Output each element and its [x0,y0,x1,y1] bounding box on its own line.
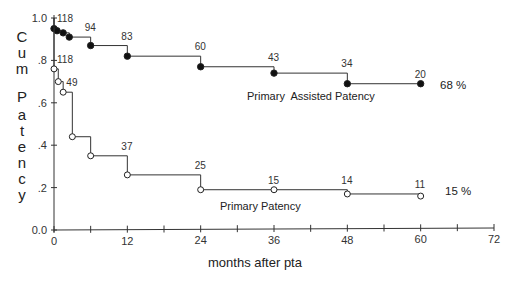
y-tick-label: .4 [38,139,47,151]
x-tick-label: 24 [195,234,207,246]
assisted-percent-label: 68 % [440,79,466,91]
at-risk-count: 11 [415,179,426,190]
open-circle-marker [271,187,277,193]
filled-circle-marker [60,30,66,36]
y-tick-label: .8 [38,54,47,66]
filled-circle-marker [197,64,203,70]
x-tick-label: 48 [341,234,353,246]
open-circle-marker [55,79,61,85]
at-risk-count: 118 [57,13,73,24]
y-tick-label: 0.0 [32,224,47,236]
open-circle-marker [88,153,94,159]
series-layer: 118948360433420118493725151411 [51,13,426,199]
y-axis-title-char: a [18,106,27,123]
step-line [54,29,421,84]
at-risk-count: 49 [66,77,78,88]
step-line [54,69,421,196]
open-circle-marker [124,172,130,178]
filled-circle-marker [344,81,350,87]
at-risk-count: 25 [195,160,207,171]
at-risk-count: 60 [195,41,207,52]
y-axis-title: CumPatency [16,28,29,203]
open-circle-marker [69,134,75,140]
primary-assisted-patency-series: 118948360433420 [51,13,426,87]
at-risk-count: 20 [415,69,427,80]
at-risk-count: 43 [268,52,280,63]
filled-circle-marker [66,34,72,40]
labels-layer: Primary Assisted Patency Primary Patency… [208,79,471,270]
at-risk-count: 94 [85,22,97,33]
filled-circle-marker [87,42,93,48]
x-tick-label: 0 [51,235,57,247]
x-tick-label: 72 [488,233,500,245]
open-circle-marker [344,191,350,197]
kaplan-meier-chart: 0.0.2.4.6.81.00122436486072 118948360433… [0,0,515,281]
x-tick-label: 12 [121,235,133,247]
y-axis-title-char: e [18,138,26,155]
open-circle-marker [60,89,66,95]
x-tick-label: 60 [415,233,427,245]
y-axis-title-char: C [17,28,28,45]
open-circle-marker [51,66,57,72]
at-risk-count: 14 [341,175,353,186]
x-axis-title: months after pta [208,255,303,270]
filled-circle-marker [124,53,130,59]
primary-percent-label: 15 % [445,185,471,197]
filled-circle-marker [54,28,60,34]
y-tick-label: .2 [38,182,47,194]
at-risk-count: 15 [268,175,280,186]
filled-circle-marker [417,81,423,87]
at-risk-count: 37 [121,141,133,152]
primary-series-label: Primary Patency [220,200,301,212]
x-tick-label: 36 [268,234,280,246]
y-axis-title-char: c [18,170,26,187]
open-circle-marker [198,187,204,193]
open-circle-marker [418,193,424,199]
y-axis-title-char: u [18,44,26,61]
y-tick-label: 1.0 [32,12,47,24]
at-risk-count: 34 [341,58,353,69]
y-axis-title-char: y [18,186,26,203]
y-axis-title-char: t [20,122,25,139]
y-axis-title-char: n [18,154,26,171]
y-axis-title-char: P [17,88,27,105]
filled-circle-marker [271,70,277,76]
y-axis-title-char: m [16,60,29,77]
y-tick-label: .6 [38,97,47,109]
assisted-series-label: Primary Assisted Patency [247,90,375,102]
at-risk-count: 118 [57,54,73,65]
at-risk-count: 83 [121,31,133,42]
